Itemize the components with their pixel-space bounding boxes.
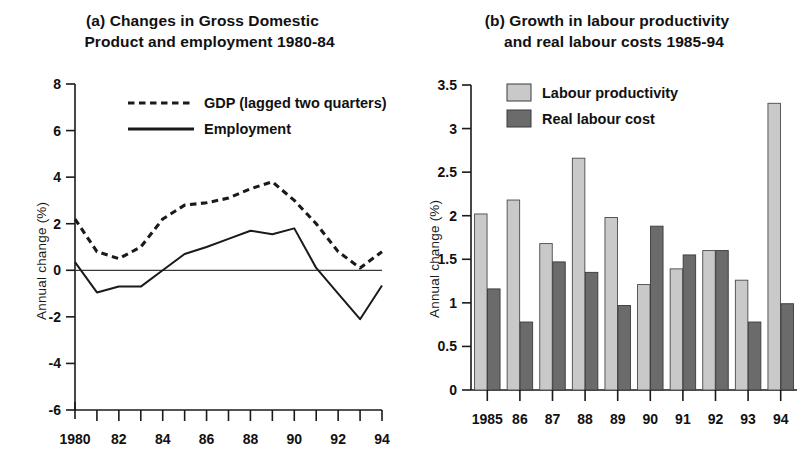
panel-a-line-chart: (a) Changes in Gross Domestic Product an… [0,0,405,468]
panel-b-ytick-0-5: 0.5 [438,338,458,354]
panel-b-ytick-3-5: 3.5 [438,77,458,93]
panel-b-xtick-88: 88 [577,411,593,427]
panel-a-xtick-1984: 84 [155,431,171,447]
panel-b-bar-cost-87 [553,262,566,390]
panel-b-ytick-2: 2 [449,208,457,224]
panel-b-ytick-3: 3 [449,121,457,137]
panel-a-xtick-1988: 88 [243,431,259,447]
panel-a-ytick--6: -6 [49,402,62,418]
panel-b-bar-cost-92 [716,251,729,390]
panel-a-title: (a) Changes in Gross Domestic Product an… [0,10,405,52]
panel-b-bar-cost-94 [781,304,794,390]
panel-b-bar-productivity-88 [572,158,585,390]
panel-a-xtick-1982: 82 [111,431,127,447]
panel-b-bar-cost-93 [748,322,761,390]
panel-a-title-line1: (a) Changes in Gross Domestic [86,12,319,29]
panel-b-y-axis-label: Annual change (%) [427,200,442,318]
panel-a-ytick-0: 0 [53,262,61,278]
panel-b-bar-cost-89 [618,305,631,390]
panel-a-ytick-6: 6 [53,123,61,139]
panel-b-title: (b) Growth in labour productivity and re… [405,10,809,52]
panel-b-xtick-92: 92 [708,411,724,427]
panel-a-xtick-1980: 1980 [59,431,90,447]
panel-b-bar-productivity-94 [768,103,781,390]
panel-b-bar-productivity-90 [638,285,651,390]
panel-b-bar-productivity-86 [507,200,520,390]
panel-b-bar-productivity-89 [605,217,618,390]
panel-a-xtick-1992: 92 [330,431,346,447]
panel-b-xtick-93: 93 [740,411,756,427]
panel-b-xtick-94: 94 [773,411,789,427]
panel-b-legend-swatch-productivity [507,84,531,101]
panel-b-title-line2: and real labour costs 1985-94 [405,31,809,52]
panel-b-plot: 00.511.522.533.51985868788899091929394La… [405,0,809,468]
panel-b-bar-productivity-87 [540,244,553,390]
panel-a-xtick-1986: 86 [199,431,215,447]
panel-a-xtick-1990: 90 [286,431,302,447]
panel-a-legend-label-gdp: GDP (lagged two quarters) [204,95,387,111]
panel-a-ytick-4: 4 [53,169,61,185]
panel-b-bar-cost-86 [520,322,533,390]
panel-a-ytick--2: -2 [49,309,62,325]
panel-b-bar-productivity-1985 [475,214,488,390]
panel-a-series-gdp [75,182,382,268]
panel-a-plot: 86420-2-4-6198082848688909294GDP (lagged… [0,0,405,468]
figure-root: (a) Changes in Gross Domestic Product an… [0,0,809,468]
panel-a-legend-label-employment: Employment [204,121,291,137]
panel-b-bar-cost-1985 [488,289,501,390]
panel-b-bar-productivity-93 [735,280,748,390]
panel-b-bar-cost-91 [683,255,696,390]
panel-b-ytick-1: 1 [449,295,457,311]
panel-a-ytick-8: 8 [53,76,61,92]
panel-a-series-employment [75,228,382,319]
panel-b-ytick-2-5: 2.5 [438,164,458,180]
panel-b-legend-label-productivity: Labour productivity [542,85,678,101]
panel-a-title-line2: Product and employment 1980-84 [0,31,405,52]
panel-b-legend-swatch-cost [507,110,531,127]
panel-b-xtick-1985: 1985 [472,411,503,427]
panel-b-ytick-0: 0 [449,382,457,398]
panel-b-xtick-86: 86 [512,411,528,427]
panel-a-xtick-1994: 94 [374,431,390,447]
panel-a-y-axis-label: Annual change (%) [34,202,49,320]
panel-b-bar-cost-90 [651,226,664,390]
panel-b-bar-chart: (b) Growth in labour productivity and re… [405,0,809,468]
panel-b-legend-label-cost: Real labour cost [542,111,655,127]
panel-b-xtick-87: 87 [545,411,561,427]
panel-a-ytick--4: -4 [49,355,62,371]
panel-b-xtick-89: 89 [610,411,626,427]
panel-b-title-line1: (b) Growth in labour productivity [485,12,729,29]
panel-b-xtick-90: 90 [643,411,659,427]
panel-b-bar-productivity-92 [703,251,716,390]
panel-b-bar-productivity-91 [670,269,683,390]
panel-b-bar-cost-88 [585,272,598,390]
panel-a-ytick-2: 2 [53,216,61,232]
panel-b-xtick-91: 91 [675,411,691,427]
